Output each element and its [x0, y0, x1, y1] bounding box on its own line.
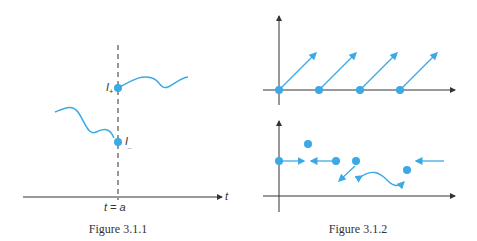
- right-limit-curve: [118, 77, 188, 88]
- figure-3-1-2-caption: Figure 3.1.2: [329, 222, 387, 237]
- t-axis-label: t: [225, 190, 228, 202]
- t-equals-a-label: t = a: [104, 201, 126, 213]
- figures-canvas: [0, 0, 477, 241]
- figure-3-1-1-caption: Figure 3.1.1: [89, 222, 147, 237]
- I-minus-label: I_: [125, 135, 132, 149]
- figure-3-1-2-bottom: [263, 121, 455, 212]
- I-minus-point: [114, 138, 122, 146]
- figure-3-1-1: [23, 45, 222, 200]
- I-plus-label: I+: [106, 81, 113, 95]
- I-plus-point: [114, 84, 122, 92]
- figure-3-1-2-top: [263, 16, 455, 105]
- left-limit-curve: [55, 107, 114, 138]
